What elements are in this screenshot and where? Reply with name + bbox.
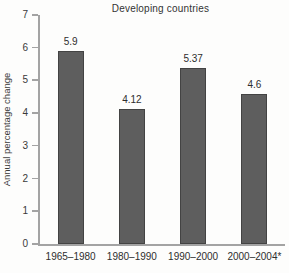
y-tick-label: 6 — [8, 43, 28, 53]
bar — [241, 94, 267, 244]
chart-title: Developing countries — [38, 3, 283, 14]
bar — [119, 109, 145, 244]
x-tick-label: 1965–1980 — [36, 251, 106, 262]
y-tick-label: 1 — [8, 206, 28, 216]
y-tick-label: 5 — [8, 75, 28, 85]
y-tick-label: 3 — [8, 141, 28, 151]
y-tick-mark — [32, 178, 38, 180]
y-tick-mark — [32, 210, 38, 212]
y-tick-mark — [32, 243, 38, 245]
bar-value-label: 5.37 — [168, 53, 218, 64]
y-tick-mark — [32, 47, 38, 49]
y-tick-label: 2 — [8, 174, 28, 184]
y-axis-label: Annual percentage change — [2, 73, 13, 187]
x-tick-label: 1990–2000 — [158, 251, 228, 262]
y-tick-label: 4 — [8, 108, 28, 118]
y-tick-mark — [32, 79, 38, 81]
x-tick-label: 2000–2004* — [219, 251, 289, 262]
bar — [58, 51, 84, 244]
bar-value-label: 4.12 — [107, 94, 157, 105]
bar-value-label: 5.9 — [46, 36, 96, 47]
y-tick-mark — [32, 14, 38, 16]
bar-chart: Developing countries Annual percentage c… — [0, 0, 289, 273]
y-tick-label: 0 — [8, 239, 28, 249]
x-tick-label: 1980–1990 — [97, 251, 167, 262]
bar — [180, 68, 206, 244]
plot-area: 012345675.91965–19804.121980–19905.37199… — [38, 15, 285, 246]
y-tick-label: 7 — [8, 10, 28, 20]
bar-value-label: 4.6 — [229, 79, 279, 90]
y-tick-mark — [32, 112, 38, 114]
y-tick-mark — [32, 145, 38, 147]
